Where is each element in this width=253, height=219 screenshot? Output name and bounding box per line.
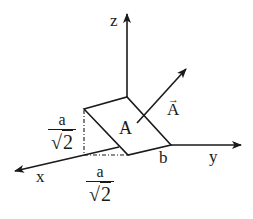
diagram-canvas: z y x A → A b a √2 a √2 bbox=[0, 0, 253, 219]
surface-label: A bbox=[119, 119, 132, 137]
x-axis-label: x bbox=[36, 168, 45, 185]
diagram-graphics bbox=[0, 0, 253, 219]
height-fraction-denominator: √2 bbox=[48, 132, 76, 152]
vector-label: → A bbox=[167, 100, 179, 120]
b-label: b bbox=[159, 149, 168, 166]
z-axis-label: z bbox=[110, 12, 118, 29]
sqrt-icon: √ bbox=[89, 183, 100, 205]
depth-fraction: a √2 bbox=[86, 164, 114, 204]
depth-fraction-denominator: √2 bbox=[86, 184, 114, 204]
sqrt-icon: √ bbox=[51, 131, 62, 153]
height-fraction: a √2 bbox=[48, 112, 76, 152]
y-axis-label: y bbox=[209, 148, 218, 165]
height-fraction-numerator: a bbox=[48, 112, 76, 128]
vector-arrow-icon: → bbox=[168, 93, 179, 105]
depth-fraction-numerator: a bbox=[86, 164, 114, 180]
